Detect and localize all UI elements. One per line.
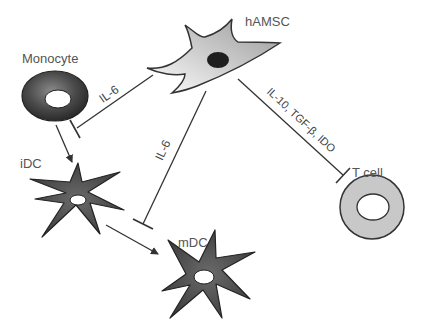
hamsc-nucleus-icon <box>207 52 229 68</box>
monocyte-nucleus-icon <box>45 90 71 108</box>
mdc-cell <box>162 230 255 318</box>
edge-monocyte-idc <box>56 125 72 162</box>
edge-hamsc-tcell <box>238 79 350 183</box>
tcell-label: T cell <box>352 166 383 179</box>
hamsc-cell <box>147 19 280 93</box>
tcell-cell <box>340 175 404 239</box>
idc-nucleus-icon <box>70 195 86 205</box>
mdc-nucleus-icon <box>194 270 214 284</box>
monocyte-cell <box>22 71 88 121</box>
edge-hamsc-mdc <box>133 91 206 229</box>
edge-idc-mdc <box>106 225 158 254</box>
idc-cell <box>30 163 124 237</box>
inhibit-bar-icon <box>70 120 80 138</box>
tcell-nucleus-icon <box>357 194 389 220</box>
monocyte-label: Monocyte <box>22 52 78 65</box>
idc-label: iDC <box>20 157 42 170</box>
mdc-label: mDC <box>178 236 208 249</box>
inhibit-bar-icon <box>133 219 153 229</box>
hamsc-label: hAMSC <box>245 15 290 28</box>
